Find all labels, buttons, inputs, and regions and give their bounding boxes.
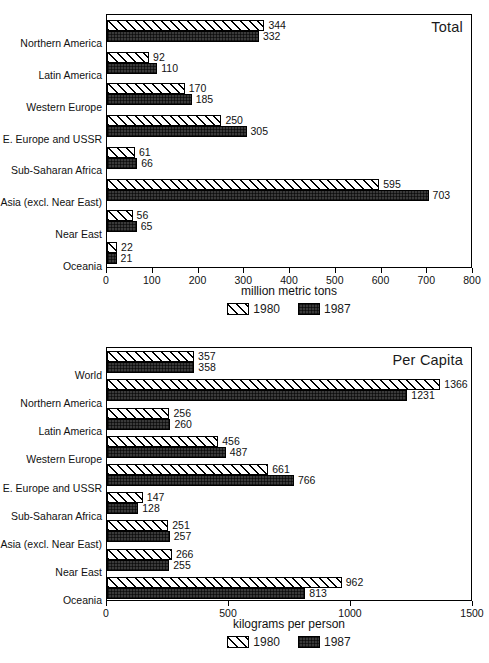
bar-1987 (107, 503, 138, 514)
bar-1980 (107, 115, 221, 126)
bar-group: 357358 (107, 351, 471, 373)
category-label: Oceania (0, 261, 102, 272)
bar-group: 147128 (107, 492, 471, 514)
bar-group: 266255 (107, 549, 471, 571)
bar-1980 (107, 52, 149, 63)
bar-value-label: 128 (142, 503, 160, 514)
legend-swatch-1980-icon (227, 303, 249, 315)
bar-1987 (107, 31, 259, 42)
bar-value-label: 487 (230, 447, 248, 458)
bar-group: 251257 (107, 520, 471, 542)
bar-1987 (107, 158, 137, 169)
bar-value-label: 595 (383, 179, 401, 190)
category-label: Near East (0, 567, 102, 578)
bar-value-label: 66 (141, 158, 153, 169)
x-axis-tick (381, 268, 382, 273)
bar-1980 (107, 436, 218, 447)
x-axis-tick (350, 601, 351, 606)
bar-group: 661766 (107, 464, 471, 486)
bar-1987 (107, 475, 294, 486)
bar-1980 (107, 147, 135, 158)
bar-group: 250305 (107, 115, 471, 137)
x-axis-title-total: million metric tons (106, 284, 472, 298)
x-axis-tick (228, 601, 229, 606)
bar-1987 (107, 531, 170, 542)
bar-value-label: 305 (251, 126, 269, 137)
x-axis-tick (289, 268, 290, 273)
bar-1980 (107, 379, 440, 390)
bar-value-label: 260 (174, 419, 192, 430)
category-label: Asia (excl. Near East) (0, 539, 102, 550)
bar-1987 (107, 190, 429, 201)
bar-rows-per-capita: 3573581366123125626045648766176614712825… (107, 348, 471, 600)
bar-group: 344332 (107, 20, 471, 42)
bar-value-label: 1366 (444, 379, 467, 390)
category-label: Near East (0, 229, 102, 240)
legend-label-1980: 1980 (253, 303, 280, 315)
legend-label-1980: 1980 (253, 636, 280, 648)
x-axis-tick (243, 268, 244, 273)
bar-1987 (107, 94, 192, 105)
bar-1987 (107, 221, 137, 232)
legend-label-1987: 1987 (324, 636, 351, 648)
bar-value-label: 21 (121, 253, 133, 264)
bar-1980 (107, 179, 379, 190)
bar-1987 (107, 588, 305, 599)
chart-per-capita: WorldNorthern AmericaLatin AmericaWester… (0, 333, 489, 663)
category-label: Sub-Saharan Africa (0, 511, 102, 522)
chart-total: Northern AmericaLatin AmericaWestern Eur… (0, 0, 489, 330)
bar-group: 256260 (107, 408, 471, 430)
bar-1987 (107, 560, 169, 571)
category-label: Oceania (0, 595, 102, 606)
bar-1980 (107, 351, 194, 362)
legend-swatch-1987-icon (298, 303, 320, 315)
bar-1987 (107, 447, 226, 458)
bar-rows-total: 3443329211017018525030561665957035665222… (107, 15, 471, 267)
bar-value-label: 962 (346, 577, 364, 588)
bar-group: 456487 (107, 436, 471, 458)
bar-group: 170185 (107, 83, 471, 105)
bar-value-label: 65 (141, 221, 153, 232)
legend-item-1987: 1987 (298, 303, 351, 315)
bar-value-label: 661 (272, 464, 290, 475)
y-axis-category-labels-per-capita: WorldNorthern AmericaLatin AmericaWester… (0, 347, 102, 601)
legend-item-1980: 1980 (227, 636, 280, 648)
legend-swatch-1987-icon (298, 636, 320, 648)
category-label: Latin America (0, 426, 102, 437)
bar-group: 13661231 (107, 379, 471, 401)
bar-1980 (107, 549, 172, 560)
category-label: E. Europe and USSR (0, 134, 102, 145)
bar-1980 (107, 577, 342, 588)
legend-item-1987: 1987 (298, 636, 351, 648)
bar-value-label: 250 (225, 115, 243, 126)
bar-1980 (107, 492, 143, 503)
bar-1987 (107, 63, 157, 74)
x-axis-per-capita: 050010001500 (106, 601, 472, 602)
bar-group: 962813 (107, 577, 471, 599)
bar-group: 5665 (107, 210, 471, 232)
bar-1980 (107, 464, 268, 475)
plot-area-per-capita: Per Capita 35735813661231256260456487661… (106, 347, 472, 601)
bar-value-label: 358 (198, 362, 216, 373)
bar-1987 (107, 126, 247, 137)
x-axis-total: 0100200300400500600700800 (106, 268, 472, 269)
bar-value-label: 110 (161, 63, 178, 74)
bar-1980 (107, 83, 185, 94)
category-label: Asia (excl. Near East) (0, 197, 102, 208)
bar-value-label: 332 (263, 31, 281, 42)
bar-1987 (107, 362, 194, 373)
x-axis-tick (152, 268, 153, 273)
category-label: Northern America (0, 38, 102, 49)
bar-value-label: 703 (433, 190, 451, 201)
bar-1980 (107, 520, 168, 531)
bar-1980 (107, 408, 169, 419)
bar-group: 595703 (107, 179, 471, 201)
bar-group: 6166 (107, 147, 471, 169)
legend-per-capita: 1980 1987 (106, 636, 472, 648)
category-label: E. Europe and USSR (0, 483, 102, 494)
bar-1987 (107, 253, 117, 264)
bar-value-label: 255 (173, 560, 191, 571)
bar-value-label: 266 (176, 549, 194, 560)
bar-1987 (107, 390, 407, 401)
bar-1980 (107, 20, 264, 31)
